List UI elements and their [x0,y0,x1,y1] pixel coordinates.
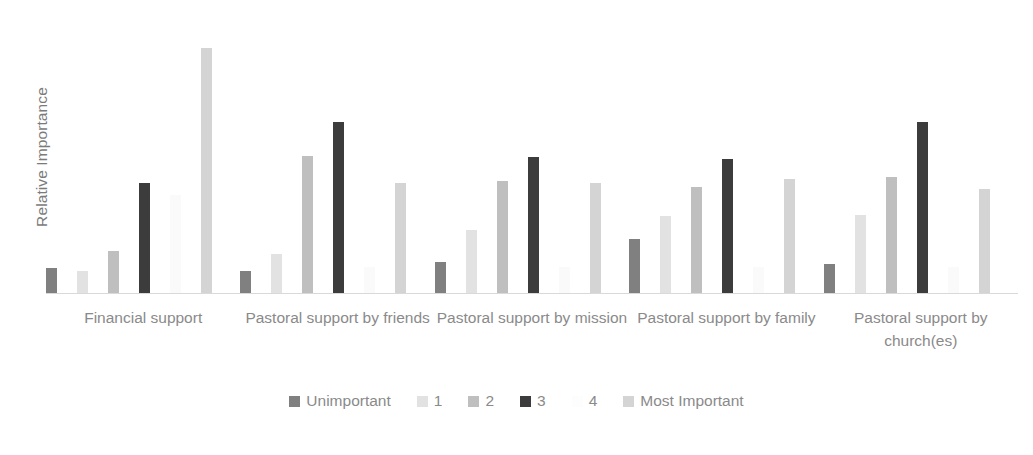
legend-label: Most Important [640,392,743,410]
x-axis-line [46,293,1018,294]
bar [722,159,733,293]
bar [139,183,150,293]
bar [855,215,866,293]
bar [395,183,406,293]
bar [77,271,88,293]
legend-label: 1 [434,392,443,410]
bar [753,267,764,293]
bar [590,183,601,293]
bar [240,271,251,293]
bar [497,181,508,293]
plot-area [46,18,1018,294]
legend-item[interactable]: 3 [520,392,546,410]
category-label: Financial support [46,306,240,368]
bar [528,157,539,293]
bar-chart: Relative Importance Financial supportPas… [0,0,1033,455]
bar-groups [46,18,1018,293]
category-label: Pastoral support by family [629,306,823,368]
bar [629,239,640,293]
bar [364,267,375,293]
category-label: Pastoral support by friends [240,306,434,368]
bar-group [629,18,823,293]
bar [170,195,181,293]
bar [886,177,897,293]
bar [271,254,282,293]
bar [948,267,959,293]
bar-group [46,18,240,293]
bar [466,230,477,293]
legend-item[interactable]: 2 [468,392,494,410]
legend-item[interactable]: Unimportant [289,392,390,410]
bar [333,122,344,293]
legend-label: Unimportant [306,392,390,410]
legend-swatch-icon [417,396,428,407]
category-label: Pastoral support by church(es) [824,306,1018,368]
legend-item[interactable]: 1 [417,392,443,410]
bar [108,251,119,293]
chart-legend: Unimportant1234Most Important [0,392,1033,410]
legend-item[interactable]: 4 [572,392,598,410]
bar [201,48,212,293]
bar-group [435,18,629,293]
category-axis-labels: Financial supportPastoral support by fri… [46,306,1018,368]
bar-group [240,18,434,293]
legend-swatch-icon [520,396,531,407]
category-label: Pastoral support by mission [435,306,629,368]
legend-label: 2 [485,392,494,410]
legend-swatch-icon [572,396,583,407]
bar [824,264,835,293]
bar [691,187,702,293]
legend-label: 4 [589,392,598,410]
legend-label: 3 [537,392,546,410]
bar [559,267,570,293]
bar [46,268,57,293]
legend-item[interactable]: Most Important [623,392,743,410]
bar [784,179,795,293]
bar-group [824,18,1018,293]
legend-swatch-icon [289,396,300,407]
legend-swatch-icon [623,396,634,407]
bar [660,216,671,293]
legend-swatch-icon [468,396,479,407]
bar [435,262,446,293]
bar [917,122,928,293]
bar [979,189,990,293]
bar [302,156,313,293]
